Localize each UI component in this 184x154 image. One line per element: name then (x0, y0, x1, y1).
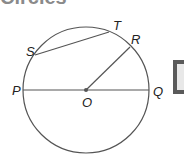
label-q: Q (153, 84, 163, 99)
label-s: S (26, 44, 35, 59)
circle-diagram: P Q O R S T (0, 0, 184, 154)
label-t: T (113, 18, 122, 33)
radius-or (86, 47, 130, 90)
label-r: R (131, 32, 140, 47)
label-o: O (82, 95, 92, 110)
side-box-inner (177, 64, 184, 90)
center-point (84, 88, 88, 92)
chord-st (35, 32, 109, 55)
side-box (173, 60, 184, 94)
label-p: P (12, 83, 21, 98)
